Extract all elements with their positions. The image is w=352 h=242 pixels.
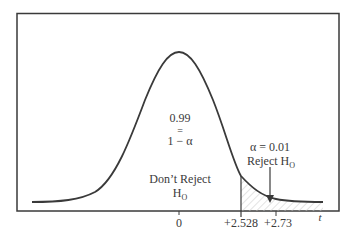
label-dont-reject: Don’t Reject (140, 173, 220, 186)
reject-subscript: O (289, 161, 295, 170)
tick-label-zero: 0 (169, 217, 189, 230)
label-one-minus-alpha: 1 − α (155, 135, 205, 148)
tick-label-stat: +2.73 (260, 217, 296, 230)
axis-label-t: t (314, 211, 326, 224)
label-reject-h0: Reject HO (240, 155, 302, 172)
reject-text: Reject H (247, 154, 289, 168)
label-alpha: α = 0.01 (242, 141, 298, 154)
h-subscript: O (181, 193, 187, 202)
label-h0-left: HO (160, 187, 200, 204)
tick-label-crit: +2.528 (220, 217, 262, 230)
rejection-region (241, 176, 323, 211)
